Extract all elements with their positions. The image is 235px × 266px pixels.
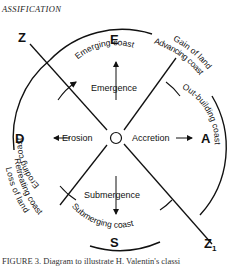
- label-submergence: Submergence: [84, 190, 140, 200]
- figure-caption: FIGURE 3. Diagram to illustrate H. Valen…: [2, 256, 180, 266]
- axis-label-z: Z: [18, 30, 26, 45]
- label-accretion: Accretion: [132, 133, 170, 143]
- label-submerging-coast: Submerging coast: [70, 201, 135, 230]
- origin-circle: [111, 133, 122, 144]
- diagonal-lines: [30, 44, 212, 244]
- axis-label-s: S: [110, 235, 119, 250]
- coastal-classification-diagram: E A S D Z Z1 Emergence Accretion Submerg…: [0, 0, 235, 266]
- label-emergence: Emergence: [91, 83, 137, 93]
- axis-label-a: A: [201, 131, 211, 146]
- label-erosion: Erosion: [62, 133, 93, 143]
- axis-label-z1: Z1: [204, 236, 217, 253]
- label-emerging-coast: Emerging coast: [73, 37, 136, 61]
